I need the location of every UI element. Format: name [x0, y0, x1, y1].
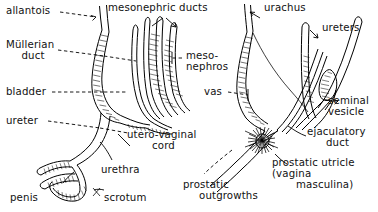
seminal-vesicle-duct-a	[296, 100, 324, 128]
label-vas: vas	[204, 87, 222, 98]
scrotum-outline-outer	[50, 165, 86, 201]
label-urethra: urethra	[101, 165, 140, 176]
label-ejaculatory-duct-line2: duct	[307, 138, 368, 149]
urethra-upper	[70, 113, 101, 161]
label-urachus: urachus	[264, 3, 306, 14]
bladder-outline-right-inner	[246, 31, 268, 124]
anatomical-figure: allantois mesonephric ducts urachus Müll…	[0, 0, 378, 212]
label-prostatic-outgrowths-line1: prostatic	[183, 180, 229, 191]
leader-urethra	[100, 142, 112, 160]
label-bladder: bladder	[6, 87, 46, 98]
label-utero-vaginal-cord-line2: cord	[127, 141, 200, 152]
leader-ureter	[48, 121, 100, 128]
urachus-left-edge	[245, 4, 248, 32]
mesonephric-duct-bundle-left	[132, 17, 190, 121]
label-ureters: ureters	[322, 23, 360, 34]
label-utero-vaginal-cord-line1: utero-vaginal	[127, 130, 197, 141]
leader-mullerian-duct-2	[104, 56, 136, 61]
bladder-outline-right	[237, 32, 265, 131]
label-mesonephros-line1: meso-	[186, 51, 218, 62]
label-prostatic-outgrowths-line2: outgrowths	[199, 191, 258, 202]
label-prostatic-utricle-line2: (vagina	[272, 169, 311, 180]
label-ejaculatory-duct-line1: ejaculatory	[307, 127, 366, 138]
label-mullerian-duct-line2: duct	[6, 51, 60, 62]
bladder-outline-left	[92, 30, 120, 123]
cord-tail-b	[154, 119, 172, 128]
label-scrotum: scrotum	[104, 193, 147, 204]
label-mullerian-duct-line1: Müllerian	[6, 40, 54, 51]
label-ureter: ureter	[6, 116, 38, 127]
bladder-trigone-curve	[253, 33, 308, 112]
cord-lower-edge	[124, 117, 150, 125]
label-prostatic-utricle-line3: masculina)	[296, 180, 353, 191]
label-mesonephros-line2: nephros	[186, 62, 228, 73]
leader-ureter-2	[100, 128, 128, 133]
allantois-stalk-left-edge	[100, 6, 103, 30]
label-allantois: allantois	[6, 6, 50, 17]
leader-allantois	[60, 12, 96, 17]
label-penis: penis	[10, 193, 38, 204]
leader-scrotum	[94, 189, 104, 190]
leader-vas	[228, 92, 248, 95]
urachus-right-edge	[251, 5, 254, 31]
label-seminal-vesicle-line2: vesicle	[328, 107, 364, 118]
scrotum-hatching	[58, 187, 86, 201]
label-seminal-vesicle-line1: seminal	[328, 96, 369, 107]
label-prostatic-utricle-line1: prostatic utricle	[272, 158, 355, 169]
penis-shaft	[37, 161, 78, 189]
mesonephros-hatching-left-2	[164, 40, 183, 96]
label-mesonephric-ducts: mesonephric ducts	[108, 3, 208, 14]
bladder-outline-inner	[102, 32, 124, 117]
